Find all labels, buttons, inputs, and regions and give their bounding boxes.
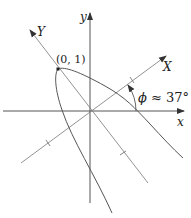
rotated-y-axis-label: Y [37, 26, 45, 38]
rotated-x-axis [21, 56, 166, 163]
y-axis-label: y [80, 11, 87, 23]
approx-symbol: ≈ [151, 90, 162, 105]
x-axis-label: x [177, 116, 184, 128]
diagram-canvas [0, 0, 191, 218]
tick-mark [46, 140, 50, 146]
angle-label: ϕ ≈ 37° [138, 91, 189, 104]
rotated-x-axis-label: X [163, 61, 172, 73]
angle-value: 37° [166, 90, 189, 105]
angle-arc [128, 85, 136, 111]
point-marker [57, 68, 60, 71]
rotated-y-axis [30, 30, 148, 183]
phi-symbol: ϕ [138, 90, 147, 105]
point-label: (0, 1) [56, 54, 86, 65]
